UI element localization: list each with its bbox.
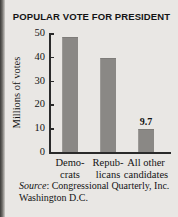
x-axis-baseline (49, 152, 171, 154)
y-tick-label: 50 (35, 28, 46, 39)
chart-title: POPULAR VOTE FOR PRESIDENT (5, 11, 178, 22)
y-axis-top-cap (49, 33, 54, 35)
x-tick-label-line: All other (124, 157, 168, 169)
y-tick-mark (49, 81, 54, 83)
y-tick-mark (49, 128, 54, 130)
y-tick-label: 20 (35, 99, 46, 110)
y-tick-label: 10 (35, 123, 46, 134)
y-axis-spine (49, 33, 51, 152)
y-tick-label: 30 (35, 75, 46, 86)
x-tick-label-line: Repub- (93, 157, 124, 169)
y-tick-label: 0 (40, 147, 45, 158)
x-tick-label-republicans: Repub- licans (93, 157, 124, 180)
source-note: Source: Congressional Quarterly, Inc. Wa… (19, 180, 177, 203)
source-prefix: Source (19, 180, 46, 191)
bar-value-label: 9.7 (140, 116, 153, 127)
y-tick-mark (49, 104, 54, 106)
y-tick-mark (49, 57, 54, 59)
x-tick-label-democrats: Demo- crats (55, 157, 84, 180)
x-tick-label-line: candidates (124, 169, 168, 181)
y-axis-label: Millions of votes (11, 33, 25, 152)
x-tick-label-line: crats (55, 169, 84, 181)
y-tick-mark (49, 152, 54, 154)
chart-plate: POPULAR VOTE FOR PRESIDENT Millions of v… (5, 0, 178, 217)
y-tick-label: 40 (35, 52, 46, 63)
bar-all-other-candidates (138, 129, 154, 152)
x-tick-label-line: licans (93, 169, 124, 181)
x-tick-label-all-other-candidates: All other candidates (124, 157, 168, 180)
bar-republicans (100, 58, 116, 152)
x-tick-label-line: Demo- (55, 157, 84, 169)
plot-area: 0 10 20 30 40 50 (49, 33, 171, 152)
chart-figure: POPULAR VOTE FOR PRESIDENT Millions of v… (0, 0, 178, 217)
bar-democrats (62, 37, 78, 152)
